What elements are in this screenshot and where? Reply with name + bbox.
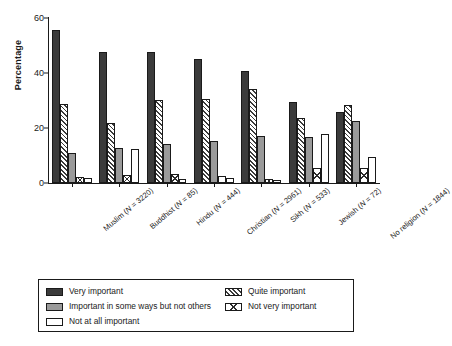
bar bbox=[68, 153, 76, 183]
bar bbox=[352, 121, 360, 183]
bar bbox=[99, 52, 107, 183]
bar bbox=[313, 168, 321, 183]
bar bbox=[368, 157, 376, 183]
bar bbox=[297, 118, 305, 183]
legend-swatch bbox=[225, 303, 242, 311]
bar-groups bbox=[48, 18, 380, 183]
bar bbox=[336, 112, 344, 184]
bar bbox=[321, 134, 329, 184]
legend-column-left: Very importantImportant in some ways but… bbox=[46, 284, 211, 329]
bar bbox=[171, 174, 179, 183]
bar bbox=[76, 177, 84, 183]
bar bbox=[84, 178, 92, 183]
bar bbox=[179, 179, 187, 183]
bar-group bbox=[190, 18, 237, 183]
bar bbox=[123, 175, 131, 183]
legend-label: Important in some ways but not others bbox=[69, 302, 211, 310]
bar bbox=[115, 148, 123, 183]
legend-label: Very important bbox=[69, 287, 123, 295]
bar bbox=[226, 178, 234, 183]
bar-group-inner bbox=[147, 18, 187, 183]
bar bbox=[257, 136, 265, 183]
bar bbox=[155, 100, 163, 183]
bar-group-inner bbox=[289, 18, 329, 183]
y-tick-label: 0 bbox=[39, 178, 44, 188]
legend-label: Not very important bbox=[248, 302, 316, 310]
legend-label: Quite important bbox=[248, 287, 305, 295]
x-axis-label: Muslim (N = 3220) bbox=[101, 186, 154, 233]
bar-group bbox=[48, 18, 95, 183]
bar bbox=[194, 59, 202, 183]
bar-group bbox=[285, 18, 332, 183]
bar-group bbox=[333, 18, 380, 183]
bar-group-inner bbox=[336, 18, 376, 183]
bar-group bbox=[238, 18, 285, 183]
bar bbox=[273, 180, 281, 183]
legend-swatch bbox=[46, 288, 63, 296]
bar-group-inner bbox=[241, 18, 281, 183]
bar bbox=[218, 176, 226, 183]
legend-swatch bbox=[46, 303, 63, 311]
bar bbox=[305, 137, 313, 183]
chart-legend: Very importantImportant in some ways but… bbox=[38, 279, 354, 332]
plot-area: Percentage 0204060 Muslim (N = 3220)Budd… bbox=[0, 0, 391, 200]
y-axis-label: Percentage bbox=[13, 25, 23, 105]
y-tick-label: 40 bbox=[34, 68, 44, 78]
bar bbox=[241, 71, 249, 183]
bar bbox=[131, 149, 139, 183]
x-axis-label: Jewish (N = 72) bbox=[336, 186, 382, 227]
bar-group-inner bbox=[52, 18, 92, 183]
x-axis-label: Buddhist (N = 85) bbox=[148, 186, 199, 231]
bar bbox=[249, 89, 257, 183]
bar bbox=[210, 141, 218, 183]
legend-swatch bbox=[46, 318, 63, 326]
bar bbox=[344, 105, 352, 183]
x-axis-label: Hindu (N = 444) bbox=[194, 186, 241, 227]
legend-item: Quite important bbox=[225, 284, 316, 299]
bar bbox=[202, 99, 210, 183]
bar-group-inner bbox=[194, 18, 234, 183]
x-axis-labels: Muslim (N = 3220)Buddhist (N = 85)Hindu … bbox=[48, 186, 380, 256]
y-tick-label: 20 bbox=[34, 123, 44, 133]
bar-group bbox=[143, 18, 190, 183]
bar bbox=[60, 104, 68, 183]
legend-item: Very important bbox=[46, 284, 211, 299]
legend-swatch bbox=[225, 288, 242, 296]
bar-group-inner bbox=[99, 18, 139, 183]
legend-item: Not very important bbox=[225, 299, 316, 314]
legend-label: Not at all important bbox=[69, 317, 139, 325]
bar bbox=[289, 102, 297, 183]
bar bbox=[52, 30, 60, 183]
bar-group bbox=[95, 18, 142, 183]
bar bbox=[163, 144, 171, 183]
bar bbox=[360, 168, 368, 183]
bar bbox=[265, 179, 273, 183]
legend-item: Not at all important bbox=[46, 314, 211, 329]
legend-column-right: Quite importantNot very important bbox=[225, 284, 316, 314]
bar bbox=[107, 123, 115, 183]
legend-item: Important in some ways but not others bbox=[46, 299, 211, 314]
axes: 0204060 bbox=[48, 18, 380, 183]
y-tick-label: 60 bbox=[34, 13, 44, 23]
x-axis-label: No religion (N = 1844) bbox=[389, 186, 452, 241]
bar bbox=[147, 52, 155, 183]
